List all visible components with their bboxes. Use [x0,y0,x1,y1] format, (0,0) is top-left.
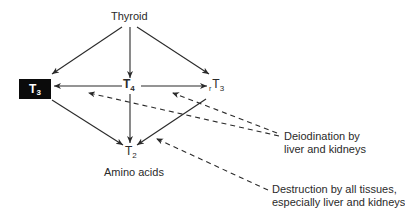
edge-t3-to-t2 [52,100,123,145]
node-rt3: rT3 [209,78,224,92]
node-amino-acids: Amino acids [104,166,164,179]
node-amino-acids-label: Amino acids [104,166,164,178]
annotation-destruction-line1: Destruction by all tissues, [272,183,405,196]
dashed-edge-deiodination-to-rt3-path [173,93,277,133]
node-t2: T2 [125,145,137,159]
node-t4-subscript: 4 [130,84,134,93]
dashed-edge-destruction-to-t2 [157,139,268,190]
node-t4: T4 [123,78,135,92]
annotation-destruction-line2: especially liver and kidneys [272,196,405,209]
node-t2-subscript: 2 [132,151,136,160]
node-rt3-subscript: 3 [220,84,224,93]
annotation-deiodination: Deiodination by liver and kidneys [284,130,366,156]
node-thyroid: Thyroid [111,10,148,23]
node-t3-subscript: 3 [36,88,40,97]
dashed-edge-deiodination-to-t3-path [89,93,279,136]
annotation-deiodination-line2: liver and kidneys [284,143,366,156]
annotation-destruction: Destruction by all tissues, especially l… [272,183,405,209]
node-rt3-prefix: r [209,85,211,92]
node-rt3-base: T [212,77,219,91]
edge-thyroid-to-rt3 [137,27,209,74]
node-t3-base: T [29,82,36,96]
node-thyroid-label: Thyroid [111,10,148,22]
annotation-deiodination-line1: Deiodination by [284,130,366,143]
edge-thyroid-to-t3 [52,27,122,74]
node-t3-highlighted: T3 [19,79,51,99]
